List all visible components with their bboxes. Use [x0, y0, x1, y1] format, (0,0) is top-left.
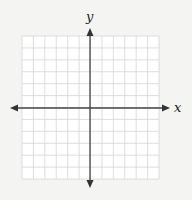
- x-axis-label: x: [174, 100, 181, 115]
- coordinate-plane: [0, 0, 192, 200]
- y-axis-label: y: [86, 9, 93, 24]
- arrow-right-icon: [162, 105, 170, 112]
- arrow-up-icon: [87, 28, 94, 36]
- arrow-down-icon: [87, 180, 94, 188]
- arrow-left-icon: [10, 105, 18, 112]
